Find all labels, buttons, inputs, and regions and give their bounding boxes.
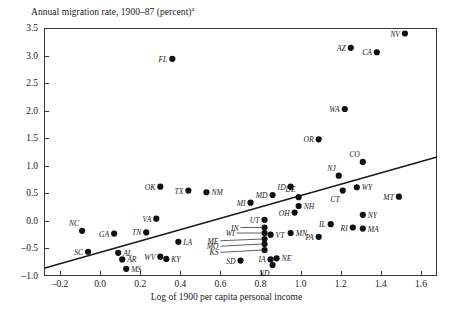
- data-point: [269, 192, 275, 198]
- data-point: [273, 255, 279, 261]
- data-point-label: MI: [237, 198, 246, 207]
- x-tick-mark: [341, 271, 342, 276]
- data-point: [328, 221, 334, 227]
- data-point-label: VA: [143, 214, 152, 223]
- y-tick-mark: [44, 248, 49, 249]
- x-tick-mark: [220, 271, 221, 276]
- data-point-label: TN: [132, 228, 141, 237]
- data-point: [296, 203, 302, 209]
- data-point-label: PA: [305, 232, 313, 241]
- x-tick-mark: [180, 271, 181, 276]
- y-tick-mark: [44, 56, 49, 57]
- data-point: [115, 250, 121, 256]
- data-point: [288, 230, 294, 236]
- data-point: [247, 200, 253, 206]
- data-point-label: IL: [319, 220, 326, 229]
- data-point: [203, 189, 209, 195]
- data-point-label: RI: [341, 223, 348, 232]
- data-point-label: MA: [368, 224, 379, 233]
- data-point: [316, 136, 322, 142]
- data-point: [350, 224, 356, 230]
- data-point: [296, 194, 302, 200]
- data-point-label: KY: [171, 254, 180, 263]
- data-point: [360, 212, 366, 218]
- data-point-label: SC: [74, 247, 83, 256]
- leader-line: [220, 250, 261, 252]
- data-point-label: OH: [279, 208, 290, 217]
- data-point: [157, 254, 163, 260]
- data-point-label: WV: [144, 252, 155, 261]
- x-tick-label: 0.4: [160, 279, 200, 289]
- data-point-label: AR: [127, 255, 136, 264]
- data-point: [402, 30, 408, 36]
- y-tick-label: 3.5: [8, 23, 38, 33]
- data-point: [163, 256, 169, 262]
- data-point: [185, 187, 191, 193]
- data-point: [316, 234, 322, 240]
- chart-canvas: [0, 0, 453, 315]
- data-point-label: AZ: [337, 43, 346, 52]
- data-point: [374, 49, 380, 55]
- data-point: [85, 249, 91, 255]
- data-point: [267, 232, 273, 238]
- data-point: [342, 106, 348, 112]
- x-tick-label: 0.6: [200, 279, 240, 289]
- chart-figure: Annual migration rate, 1900–87 (percent)…: [0, 0, 453, 315]
- data-point: [123, 266, 129, 272]
- data-point: [153, 216, 159, 222]
- data-point: [157, 184, 163, 190]
- x-tick-mark: [60, 271, 61, 276]
- y-tick-label: 2.5: [8, 78, 38, 88]
- data-point-label: NC: [69, 218, 79, 227]
- leader-line: [220, 244, 261, 246]
- data-point-label: OR: [304, 135, 314, 144]
- data-point-label: NY: [368, 210, 377, 219]
- data-point-label: UT: [250, 215, 260, 224]
- data-point-label: OK: [145, 182, 156, 191]
- data-point-label: WI: [226, 229, 235, 238]
- trend-line: [44, 157, 437, 268]
- x-tick-mark: [421, 271, 422, 276]
- data-point: [261, 230, 267, 236]
- data-point: [175, 239, 181, 245]
- x-tick-label: –0.2: [40, 279, 80, 289]
- y-tick-mark: [44, 111, 49, 112]
- y-tick-label: –1.0: [8, 271, 38, 281]
- x-tick-mark: [301, 271, 302, 276]
- data-point-label: WA: [329, 105, 339, 114]
- data-point-label: IA: [258, 255, 265, 264]
- y-tick-mark: [44, 138, 49, 139]
- data-point-label: DE: [286, 185, 296, 194]
- data-point: [336, 173, 342, 179]
- y-tick-mark: [44, 83, 49, 84]
- data-point: [261, 217, 267, 223]
- data-point-label: CO: [349, 149, 360, 158]
- data-point: [354, 184, 360, 190]
- x-axis-title: Log of 1900 per capita personal income: [0, 292, 453, 302]
- data-point: [360, 226, 366, 232]
- y-tick-mark: [44, 193, 49, 194]
- data-point: [261, 241, 267, 247]
- data-point-label: NV: [390, 29, 400, 38]
- data-point-label: CA: [362, 48, 372, 57]
- data-point: [143, 229, 149, 235]
- data-point-label: TX: [174, 186, 183, 195]
- data-point-label: CT: [330, 194, 339, 203]
- data-point: [169, 56, 175, 62]
- data-point: [348, 45, 354, 51]
- data-point-label: KS: [210, 248, 219, 257]
- data-point-label: NM: [211, 188, 222, 197]
- x-tick-mark: [381, 271, 382, 276]
- x-tick-label: 0.8: [241, 279, 281, 289]
- data-point-label: ND: [259, 268, 270, 277]
- data-point-label: FL: [158, 54, 167, 63]
- x-tick-label: 1.4: [361, 279, 401, 289]
- y-tick-mark: [44, 221, 49, 222]
- x-tick-label: 0.0: [80, 279, 120, 289]
- data-point: [261, 224, 267, 230]
- data-point-label: MS: [131, 264, 141, 273]
- data-point-label: ID: [278, 182, 286, 191]
- y-tick-mark: [44, 166, 49, 167]
- x-tick-mark: [100, 271, 101, 276]
- data-point-label: NH: [304, 202, 315, 211]
